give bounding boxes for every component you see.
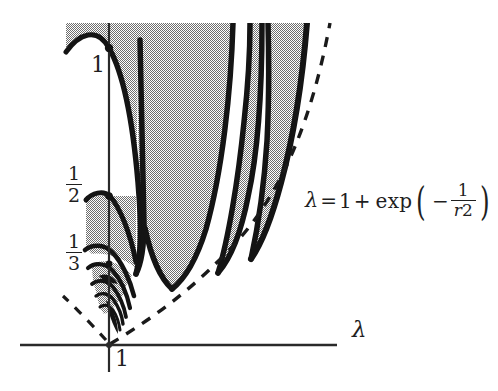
equation-lambda: λ xyxy=(305,190,318,211)
tick-one-third-denominator: 3 xyxy=(66,253,82,273)
equation-fraction-denominator: r2 xyxy=(451,201,476,219)
root-dot-1-2 xyxy=(105,192,113,200)
tick-one-third-numerator: 1 xyxy=(66,232,82,253)
equation-one: 1 xyxy=(339,191,352,211)
tick-label-one-half: 1 2 xyxy=(66,164,82,205)
tick-one-half-numerator: 1 xyxy=(66,164,82,185)
origin-dot xyxy=(106,342,112,348)
equation-denominator-exponent: 2 xyxy=(462,200,473,220)
equation-exp: exp xyxy=(373,191,413,211)
root-dot-1 xyxy=(105,44,113,52)
equation-fraction: 1 r2 xyxy=(451,182,476,219)
equation-open-paren: ( xyxy=(416,190,426,212)
equation-fraction-numerator: 1 xyxy=(451,182,476,201)
equation-plus: + xyxy=(353,191,372,211)
equation-denominator-base: r xyxy=(454,200,462,220)
tick-label-one-third: 1 3 xyxy=(66,232,82,273)
tick-label-1: 1 xyxy=(91,54,105,76)
tick-one-half-denominator: 2 xyxy=(66,185,82,205)
root-dot-1-3 xyxy=(106,261,113,268)
figure-canvas: 1 1 2 1 3 1 λ λ = 1 + exp ( − 1 r2 ) xyxy=(0,0,498,391)
origin-label: 1 xyxy=(115,348,129,370)
lambda-axis-label: λ xyxy=(352,318,367,341)
equation-close-paren: ) xyxy=(480,190,490,212)
equation-equals: = xyxy=(319,191,338,211)
envelope-equation: λ = 1 + exp ( − 1 r2 ) xyxy=(305,182,492,219)
equation-minus: − xyxy=(430,191,450,211)
